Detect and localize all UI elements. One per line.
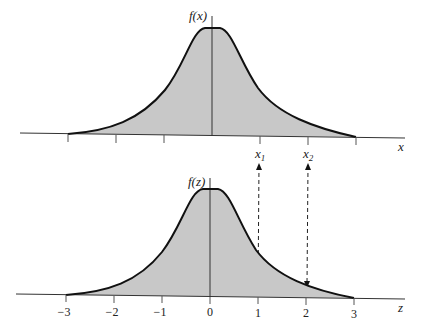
svg-text:−2: −2 — [106, 305, 119, 319]
svg-text:−1: −1 — [154, 305, 167, 319]
x2-label: x2 — [302, 146, 314, 163]
bottom-tick-labels: −3 −2 −1 0 1 2 3 — [58, 305, 357, 321]
figure-canvas: f(x) x x1 x2 −3 −2 −1 0 — [0, 0, 427, 334]
arrow-x2-to-z2 — [307, 166, 308, 285]
x1-label: x1 — [254, 146, 265, 163]
svg-text:1: 1 — [255, 306, 261, 320]
bottom-y-label: f(z) — [188, 174, 205, 189]
top-plot: f(x) x x1 x2 — [20, 8, 405, 163]
svg-text:−3: −3 — [58, 305, 71, 319]
bottom-plot: −3 −2 −1 0 1 2 3 f(z) z — [16, 174, 405, 321]
svg-text:0: 0 — [207, 305, 213, 319]
bottom-x-label: z — [397, 300, 403, 315]
svg-text:2: 2 — [303, 306, 309, 320]
arrowhead-up-icon — [256, 163, 262, 170]
top-y-label: f(x) — [189, 8, 207, 23]
arrowhead-up-icon — [305, 163, 311, 170]
svg-text:3: 3 — [351, 307, 357, 321]
top-x-label: x — [397, 139, 404, 154]
